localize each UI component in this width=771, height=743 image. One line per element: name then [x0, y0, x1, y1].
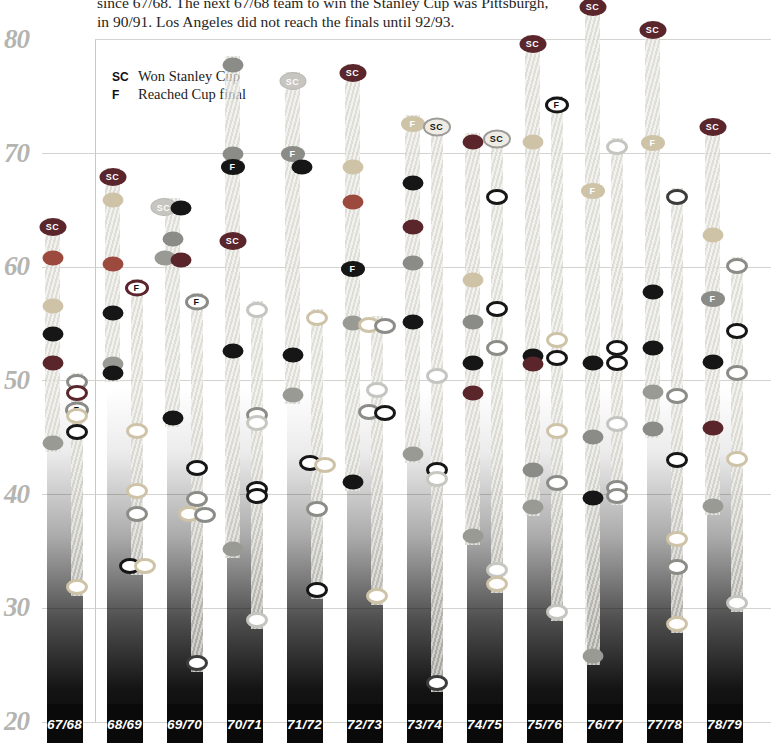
team-ring: [426, 368, 448, 384]
team-dot: [342, 160, 363, 175]
team-dot: [342, 195, 363, 210]
team-ring: [726, 595, 748, 611]
cup-final-badge: F: [581, 183, 605, 199]
team-dot: [642, 340, 663, 355]
season-label: 78/79: [707, 717, 743, 732]
y-axis-line: [95, 40, 96, 722]
stanley-cup-badge: SC: [99, 168, 126, 186]
team-ring: [186, 460, 208, 476]
stanley-cup-badge: SC: [519, 35, 546, 53]
team-ring: [666, 616, 688, 632]
y-axis-label: 20: [4, 706, 44, 737]
stanley-cup-badge: SC: [39, 218, 66, 236]
season-label: 69/70: [167, 717, 203, 732]
team-ring: [546, 350, 568, 366]
team-ring: [126, 483, 148, 499]
team-ring: [486, 301, 508, 317]
team-dot: [582, 649, 603, 664]
legend-f-symbol: F: [112, 88, 138, 102]
team-dot: [162, 231, 183, 246]
cup-final-badge: F: [125, 279, 149, 296]
expansion-stick: [371, 316, 383, 605]
team-ring: [426, 675, 448, 691]
team-ring: [246, 612, 268, 628]
team-ring: [606, 416, 628, 432]
team-ring: [306, 501, 328, 517]
team-dot: [642, 385, 663, 400]
team-dot: [462, 272, 483, 287]
team-dot: [642, 285, 663, 300]
legend-sc-symbol: SC: [112, 70, 138, 84]
team-dot: [282, 387, 303, 402]
team-dot: [402, 446, 423, 461]
team-ring: [314, 457, 336, 473]
team-dot: [702, 420, 723, 435]
team-ring: [726, 323, 748, 339]
team-ring: [186, 655, 208, 671]
established-stick: [465, 133, 480, 544]
team-ring: [186, 491, 208, 507]
team-ring: [486, 340, 508, 356]
team-ring: [246, 488, 268, 504]
team-dot: [522, 356, 543, 371]
team-ring: [666, 531, 688, 547]
team-dot: [102, 305, 123, 320]
cup-final-badge: F: [341, 261, 365, 277]
team-ring: [306, 310, 328, 326]
chart-plot-area: since 67/68. The next 67/68 team to win …: [0, 0, 771, 743]
stanley-cup-badge: SC: [219, 232, 246, 250]
team-ring: [194, 507, 216, 523]
team-ring: [606, 139, 628, 155]
team-ring: [666, 559, 688, 575]
team-ring: [486, 576, 508, 592]
expansion-stick: [611, 138, 623, 505]
team-ring: [66, 424, 88, 440]
annotation-line-2: in 90/91. Los Angeles did not reach the …: [97, 12, 657, 31]
cup-final-badge: F: [401, 116, 425, 132]
team-ring: [306, 582, 328, 598]
y-axis-label: 40: [4, 479, 44, 510]
stanley-cup-badge: SC: [639, 21, 666, 39]
team-dot: [102, 365, 123, 380]
team-dot: [462, 386, 483, 401]
expansion-stick: [431, 118, 443, 692]
stanley-cup-badge: SC: [423, 118, 451, 137]
season-label: 71/72: [287, 717, 323, 732]
team-ring: [246, 415, 268, 431]
established-stick: [645, 21, 660, 438]
stanley-cup-badge: SC: [339, 64, 366, 82]
season-label: 77/78: [647, 717, 683, 732]
team-ring: [546, 332, 568, 348]
team-dot: [462, 528, 483, 543]
stanley-cup-badge: SC: [483, 129, 511, 148]
team-dot: [642, 421, 663, 436]
team-ring: [374, 405, 396, 421]
team-dot: [402, 255, 423, 270]
established-stick: [705, 118, 720, 515]
team-dot: [402, 314, 423, 329]
team-ring: [546, 604, 568, 620]
season-label: 76/77: [587, 717, 623, 732]
team-ring: [426, 471, 448, 487]
season-label: 67/68: [47, 717, 83, 732]
team-dot: [42, 436, 63, 451]
team-dot: [582, 355, 603, 370]
team-dot: [402, 220, 423, 235]
season-label: 70/71: [227, 717, 263, 732]
expansion-stick: [251, 301, 263, 628]
team-ring: [726, 258, 748, 274]
y-axis-label: 50: [4, 365, 44, 396]
team-ring: [366, 588, 388, 604]
team-dot: [462, 314, 483, 329]
team-dot: [462, 135, 483, 150]
annotation-line-1: since 67/68. The next 67/68 team to win …: [97, 0, 657, 12]
team-ring: [666, 388, 688, 404]
team-dot: [222, 57, 243, 72]
team-ring: [486, 562, 508, 578]
y-axis-label: 80: [4, 24, 44, 55]
team-ring: [546, 475, 568, 491]
team-ring: [246, 302, 268, 318]
team-dot: [522, 135, 543, 150]
established-stick: [525, 35, 540, 516]
expansion-stick: [191, 293, 203, 671]
